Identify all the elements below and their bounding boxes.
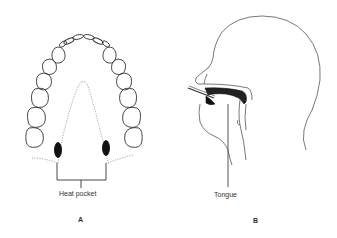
right-teeth	[103, 47, 142, 147]
incisors	[58, 34, 110, 48]
oral-anatomy-figure: Heat pocket Tongue A B	[0, 0, 337, 238]
chin-jaw	[199, 104, 232, 165]
neck-back	[303, 110, 312, 150]
face-profile	[195, 58, 213, 84]
panel-a-dental-arch	[26, 34, 142, 188]
heat-pocket-bracket	[57, 163, 106, 188]
dotted-palate-outline	[32, 82, 133, 164]
head-outline	[213, 16, 320, 110]
panel-b-letter: B	[253, 217, 258, 224]
heat-pocket-label: Heat pocket	[59, 190, 96, 197]
tongue-label: Tongue	[214, 191, 237, 198]
heat-pocket-markers	[55, 141, 110, 158]
panel-a-letter: A	[78, 216, 83, 223]
left-teeth	[26, 47, 65, 147]
